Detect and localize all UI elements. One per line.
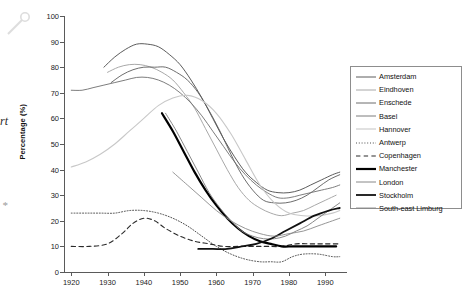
y-axis-tick <box>60 272 64 273</box>
left-margin-text-fragment: rt <box>0 114 8 129</box>
y-axis-tick-label: 0 <box>55 268 59 277</box>
x-axis-tick <box>144 272 145 276</box>
x-axis-tick <box>253 272 254 276</box>
x-axis-tick <box>71 272 72 276</box>
legend-swatch-icon <box>355 190 377 200</box>
legend-swatch-icon <box>355 72 377 82</box>
x-axis-tick-label: 1990 <box>317 278 334 287</box>
magnifier-pin-icon <box>4 8 34 38</box>
legend-label: South-east Limburg <box>379 204 443 213</box>
series-line-london <box>166 113 340 239</box>
legend-label: Copenhagen <box>379 151 421 160</box>
legend-label: Manchester <box>379 164 417 173</box>
y-axis-tick-label: 50 <box>51 140 59 149</box>
x-axis-tick-label: 1950 <box>172 278 189 287</box>
legend-item-enschede[interactable]: Enschede <box>351 96 461 109</box>
series-line-eindhoven <box>108 64 337 215</box>
legend-item-amsterdam[interactable]: Amsterdam <box>351 70 461 83</box>
series-line-antwerp <box>71 210 339 262</box>
x-axis-tick <box>216 272 217 276</box>
series-line-copenhagen <box>71 218 339 246</box>
x-axis-line <box>64 272 347 273</box>
legend-item-manchester[interactable]: Manchester <box>351 162 461 175</box>
legend-label: London <box>379 178 403 187</box>
legend-label: Basel <box>379 112 397 121</box>
legend-item-stockholm[interactable]: Stockholm <box>351 189 461 202</box>
y-axis-tick-label: 20 <box>51 216 59 225</box>
y-axis-tick-label: 80 <box>51 63 59 72</box>
x-axis-tick-label: 1940 <box>135 278 152 287</box>
x-axis-tick-label: 1980 <box>281 278 298 287</box>
legend-label: Stockholm <box>379 191 413 200</box>
y-axis-tick-label: 90 <box>51 37 59 46</box>
x-axis-tick-label: 1960 <box>208 278 225 287</box>
legend-swatch-icon <box>355 138 377 148</box>
y-axis-tick-label: 60 <box>51 114 59 123</box>
series-line-south-east-limburg <box>173 172 340 236</box>
series-line-hannover <box>71 95 339 216</box>
series-lines <box>64 16 347 272</box>
legend-label: Amsterdam <box>379 72 416 81</box>
legend-swatch-icon <box>355 111 377 121</box>
series-line-enschede <box>111 67 340 203</box>
y-axis-title: Percentage (%) <box>18 104 27 160</box>
legend-swatch-icon <box>355 124 377 134</box>
y-axis-tick-label: 40 <box>51 165 59 174</box>
y-axis-tick-label: 100 <box>46 12 59 21</box>
chart-legend: AmsterdamEindhovenEnschedeBaselHannoverA… <box>350 66 462 209</box>
legend-item-hannover[interactable]: Hannover <box>351 123 461 136</box>
legend-swatch-icon <box>355 203 377 213</box>
legend-label: Antwerp <box>379 138 406 147</box>
legend-label: Eindhoven <box>379 85 413 94</box>
y-axis-tick-label: 30 <box>51 191 59 200</box>
legend-item-antwerp[interactable]: Antwerp <box>351 136 461 149</box>
x-axis-tick <box>325 272 326 276</box>
legend-item-london[interactable]: London <box>351 176 461 189</box>
legend-item-south-east-limburg[interactable]: South-east Limburg <box>351 202 461 215</box>
y-axis-tick-label: 10 <box>51 242 59 251</box>
legend-item-basel[interactable]: Basel <box>351 110 461 123</box>
x-axis-tick <box>289 272 290 276</box>
x-axis-tick-label: 1920 <box>63 278 80 287</box>
left-margin-marker: * <box>2 199 8 211</box>
x-axis-tick <box>108 272 109 276</box>
x-axis-tick-label: 1970 <box>244 278 261 287</box>
series-line-basel <box>71 77 339 198</box>
legend-item-eindhoven[interactable]: Eindhoven <box>351 83 461 96</box>
x-axis-tick <box>180 272 181 276</box>
legend-swatch-icon <box>355 164 377 174</box>
legend-label: Enschede <box>379 98 411 107</box>
plot-area: 0102030405060708090100 19201930194019501… <box>64 16 347 272</box>
legend-swatch-icon <box>355 151 377 161</box>
x-axis-tick-label: 1930 <box>99 278 116 287</box>
legend-item-copenhagen[interactable]: Copenhagen <box>351 149 461 162</box>
y-axis-tick-label: 70 <box>51 88 59 97</box>
legend-label: Hannover <box>379 125 411 134</box>
series-line-amsterdam <box>104 44 340 193</box>
legend-swatch-icon <box>355 98 377 108</box>
legend-swatch-icon <box>355 177 377 187</box>
legend-swatch-icon <box>355 85 377 95</box>
